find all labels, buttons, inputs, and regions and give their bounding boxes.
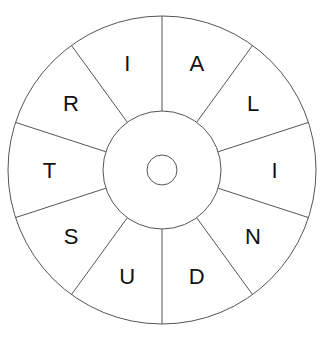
segment-letter[interactable]: L: [247, 91, 259, 116]
segment-letter[interactable]: I: [271, 158, 277, 183]
segment-letter[interactable]: U: [119, 264, 135, 289]
center-hole: [147, 155, 177, 185]
segment-letter[interactable]: D: [189, 264, 205, 289]
segment-letter[interactable]: R: [63, 91, 79, 116]
segment-letter[interactable]: S: [64, 224, 79, 249]
segment-letter[interactable]: T: [43, 158, 56, 183]
segment-letter[interactable]: A: [189, 51, 204, 76]
segment-letter[interactable]: I: [124, 51, 130, 76]
segment-letter[interactable]: N: [245, 224, 261, 249]
word-wheel: A L I N D U S T R I: [0, 0, 323, 338]
